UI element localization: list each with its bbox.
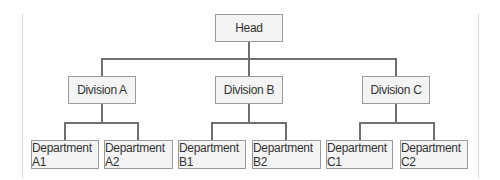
connector-a1 — [64, 122, 66, 140]
node-division-c: Division C — [362, 76, 430, 104]
node-department-b1: Department B1 — [178, 140, 246, 169]
node-head: Head — [215, 14, 283, 42]
node-division-b: Division B — [215, 76, 283, 104]
connector-c1 — [359, 122, 361, 140]
connector-b2 — [285, 122, 287, 140]
connector-b-bar — [211, 122, 287, 124]
node-department-c2: Department C2 — [400, 140, 468, 169]
connector-b1 — [211, 122, 213, 140]
node-department-c1: Department C1 — [326, 140, 393, 169]
node-department-b2: Department B2 — [252, 140, 321, 169]
connector-c-down — [395, 104, 397, 123]
node-department-a1: Department A1 — [31, 140, 99, 169]
connector-c-bar — [359, 122, 435, 124]
left-frame-line — [22, 14, 23, 178]
connector-division-a — [101, 58, 103, 76]
connector-b-down — [248, 104, 250, 123]
connector-a-bar — [64, 122, 139, 124]
connector-division-b — [248, 58, 250, 76]
connector-division-c — [395, 58, 397, 76]
node-division-a: Division A — [68, 76, 136, 104]
connector-a2 — [137, 122, 139, 140]
connector-a-down — [101, 104, 103, 123]
connector-c2 — [433, 122, 435, 140]
node-department-a2: Department A2 — [104, 140, 173, 169]
right-frame-line — [478, 14, 479, 178]
